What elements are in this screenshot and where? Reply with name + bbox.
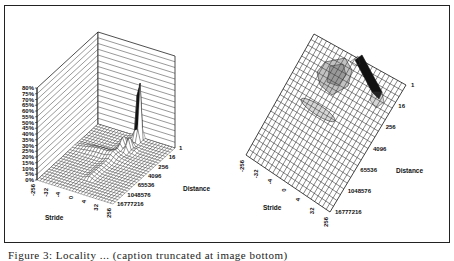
svg-text:256: 256 [106, 207, 112, 218]
svg-text:4: 4 [81, 199, 87, 203]
svg-text:0%: 0% [25, 177, 34, 183]
svg-text:60%: 60% [22, 108, 35, 114]
svg-text:-32: -32 [43, 187, 49, 196]
svg-text:1048576: 1048576 [127, 192, 151, 198]
svg-text:35%: 35% [22, 137, 35, 143]
svg-text:65536: 65536 [138, 182, 155, 188]
svg-text:25%: 25% [22, 148, 35, 154]
svg-text:32: 32 [93, 203, 99, 210]
svg-text:65%: 65% [22, 102, 35, 108]
surface-chart-3d: 0%5%10%15%20%25%30%35%40%45%50%55%60%65%… [0, 0, 230, 245]
svg-text:70%: 70% [22, 97, 35, 103]
svg-text:5%: 5% [25, 171, 34, 177]
svg-text:4096: 4096 [148, 173, 162, 179]
svg-text:45%: 45% [22, 125, 35, 131]
svg-text:10%: 10% [22, 166, 35, 172]
svg-text:16: 16 [169, 154, 176, 160]
svg-text:1: 1 [179, 145, 183, 151]
figure-caption: Figure 3: Locality ... (caption truncate… [8, 249, 288, 261]
svg-text:16777216: 16777216 [117, 201, 144, 207]
svg-text:-256: -256 [30, 183, 36, 196]
svg-text:15%: 15% [22, 160, 35, 166]
svg-text:256: 256 [158, 164, 169, 170]
svg-text:30%: 30% [22, 143, 35, 149]
svg-text:50%: 50% [22, 120, 35, 126]
svg-text:40%: 40% [22, 131, 35, 137]
svg-text:20%: 20% [22, 154, 35, 160]
svg-text:75%: 75% [22, 91, 35, 97]
svg-text:80%: 80% [22, 85, 35, 91]
stride-axis-title: Stride [45, 214, 64, 221]
z-axis-tick-labels: 0%5%10%15%20%25%30%35%40%45%50%55%60%65%… [22, 85, 37, 183]
svg-text:-4: -4 [55, 191, 61, 197]
svg-text:0: 0 [68, 195, 74, 199]
svg-text:55%: 55% [22, 114, 35, 120]
distance-axis-title: Distance [183, 185, 210, 192]
